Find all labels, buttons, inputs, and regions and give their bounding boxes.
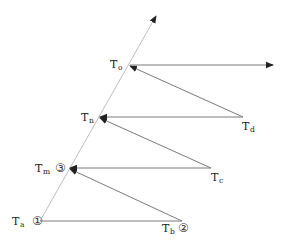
marker-1: ① xyxy=(32,214,43,228)
svg-text:o: o xyxy=(118,63,123,72)
label-tb: T b ② xyxy=(162,221,189,236)
marker-3: ③ xyxy=(55,161,66,175)
label-td: T d xyxy=(242,120,255,134)
svg-text:T: T xyxy=(162,222,170,235)
time-axis xyxy=(40,16,156,221)
svg-text:c: c xyxy=(219,176,223,185)
edge-tb-tm xyxy=(70,169,182,221)
edge-td-to xyxy=(130,66,243,117)
svg-text:T: T xyxy=(110,58,118,71)
svg-text:T: T xyxy=(81,111,89,124)
svg-text:T: T xyxy=(211,171,219,184)
svg-text:T: T xyxy=(12,215,20,228)
svg-text:d: d xyxy=(250,125,255,134)
label-tm: T m ③ xyxy=(35,161,66,176)
svg-text:n: n xyxy=(89,116,94,125)
timing-diagram: T o T n T d T m ③ T c T a ① T b ② xyxy=(0,0,287,250)
label-ta: T a ① xyxy=(12,214,43,229)
svg-text:b: b xyxy=(170,227,175,236)
marker-2: ② xyxy=(178,221,189,235)
label-to: T o xyxy=(110,58,123,72)
svg-text:a: a xyxy=(20,220,25,229)
svg-text:T: T xyxy=(35,162,43,175)
svg-text:m: m xyxy=(43,167,50,176)
label-tn: T n xyxy=(81,111,94,125)
edge-tc-tn xyxy=(100,118,211,168)
svg-text:T: T xyxy=(242,120,250,133)
label-tc: T c xyxy=(211,171,223,185)
